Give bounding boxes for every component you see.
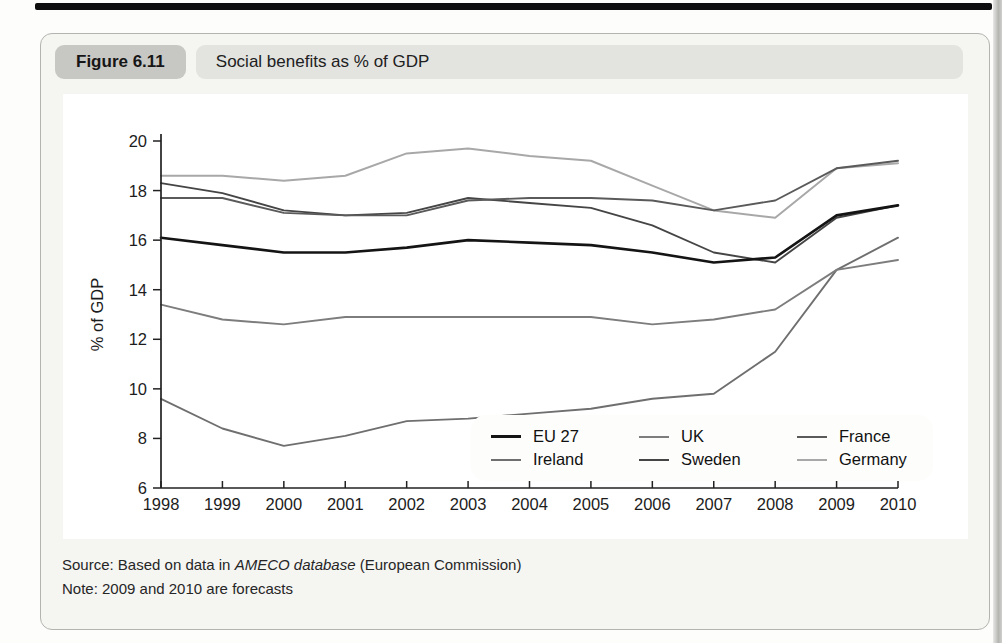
svg-text:2002: 2002 bbox=[388, 495, 425, 513]
svg-text:2009: 2009 bbox=[818, 495, 855, 513]
france-line-swatch bbox=[797, 436, 827, 438]
legend-item-germany: Germany bbox=[797, 450, 917, 469]
svg-text:2006: 2006 bbox=[634, 495, 671, 513]
legend-item-eu27: EU 27 bbox=[491, 427, 639, 446]
svg-text:2008: 2008 bbox=[757, 495, 794, 513]
source-text-prefix: Source: Based on data in bbox=[62, 556, 235, 573]
legend-item-ireland: Ireland bbox=[491, 450, 639, 469]
eu27-line-swatch bbox=[491, 435, 521, 438]
svg-text:2005: 2005 bbox=[573, 495, 610, 513]
svg-text:2000: 2000 bbox=[265, 495, 302, 513]
svg-text:20: 20 bbox=[129, 132, 147, 150]
svg-text:2007: 2007 bbox=[695, 495, 732, 513]
chart-area: 6810121416182019981999200020012002200320… bbox=[63, 94, 968, 539]
ireland-line-swatch bbox=[491, 459, 521, 461]
svg-text:1998: 1998 bbox=[143, 495, 180, 513]
scan-page-edge bbox=[993, 0, 1002, 643]
legend-item-france: France bbox=[797, 427, 917, 446]
uk-line-swatch bbox=[639, 436, 669, 438]
legend-label-sweden: Sweden bbox=[681, 450, 741, 469]
legend-label-ireland: Ireland bbox=[533, 450, 583, 469]
figure-container: Figure 6.11 Social benefits as % of GDP … bbox=[40, 33, 990, 630]
svg-text:2003: 2003 bbox=[450, 495, 487, 513]
svg-text:10: 10 bbox=[129, 380, 147, 398]
figure-number-label: Figure 6.11 bbox=[55, 45, 186, 79]
legend-label-france: France bbox=[839, 427, 890, 446]
legend-item-uk: UK bbox=[639, 427, 797, 446]
svg-text:2010: 2010 bbox=[880, 495, 917, 513]
svg-text:2004: 2004 bbox=[511, 495, 548, 513]
figure-header: Figure 6.11 Social benefits as % of GDP bbox=[55, 45, 963, 79]
source-text-database: AMECO database bbox=[235, 556, 356, 573]
svg-text:2001: 2001 bbox=[327, 495, 364, 513]
note-line: Note: 2009 and 2010 are forecasts bbox=[62, 577, 521, 601]
source-line: Source: Based on data in AMECO database … bbox=[62, 553, 521, 577]
svg-text:1999: 1999 bbox=[204, 495, 241, 513]
svg-text:12: 12 bbox=[129, 330, 147, 348]
source-text-suffix: (European Commission) bbox=[356, 556, 522, 573]
svg-text:18: 18 bbox=[129, 182, 147, 200]
figure-title: Social benefits as % of GDP bbox=[196, 45, 963, 79]
legend-item-sweden: Sweden bbox=[639, 450, 797, 469]
svg-text:14: 14 bbox=[129, 281, 147, 299]
legend-label-eu27: EU 27 bbox=[533, 427, 579, 446]
chart-legend: EU 27 UK France Ireland Sweden bbox=[471, 415, 933, 481]
scan-top-edge bbox=[35, 3, 992, 10]
sweden-line-swatch bbox=[639, 459, 669, 461]
scanned-page: Figure 6.11 Social benefits as % of GDP … bbox=[0, 0, 1002, 643]
legend-label-germany: Germany bbox=[839, 450, 907, 469]
germany-line-swatch bbox=[797, 459, 827, 461]
source-note-block: Source: Based on data in AMECO database … bbox=[62, 553, 521, 601]
svg-text:% of GDP: % of GDP bbox=[88, 278, 106, 351]
legend-label-uk: UK bbox=[681, 427, 704, 446]
svg-text:16: 16 bbox=[129, 231, 147, 249]
svg-text:8: 8 bbox=[138, 429, 147, 447]
